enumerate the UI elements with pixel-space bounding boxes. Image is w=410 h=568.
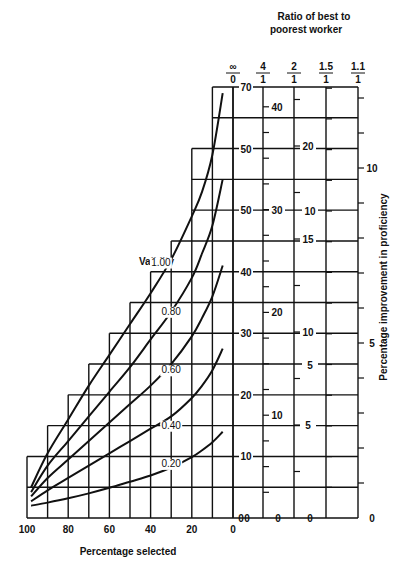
validity-curve-1-00 <box>31 93 223 487</box>
top-title-line2: poorest worker <box>270 24 342 35</box>
svg-text:5: 5 <box>369 338 375 349</box>
svg-text:1: 1 <box>355 74 361 85</box>
svg-text:40: 40 <box>145 524 157 535</box>
chart-canvas: ∞041211.511.1101020304050507001020304005… <box>0 0 410 568</box>
svg-text:100: 100 <box>19 524 36 535</box>
svg-text:20: 20 <box>186 524 198 535</box>
validity-label: 1.00 <box>151 257 171 268</box>
svg-text:50: 50 <box>240 144 252 155</box>
validity-curve-0-60 <box>31 266 223 497</box>
svg-text:0: 0 <box>275 513 281 524</box>
validity-label: 0.60 <box>161 364 181 375</box>
svg-text:0: 0 <box>230 74 236 85</box>
svg-text:20: 20 <box>271 307 283 318</box>
svg-text:5: 5 <box>307 360 313 371</box>
svg-text:1: 1 <box>323 74 329 85</box>
scale-axes: ∞041211.511.1101020304050507001020304005… <box>226 61 380 524</box>
svg-text:70: 70 <box>240 82 252 93</box>
svg-text:20: 20 <box>240 390 252 401</box>
svg-text:1: 1 <box>291 74 297 85</box>
svg-text:10: 10 <box>366 163 378 174</box>
svg-text:2: 2 <box>291 61 297 72</box>
svg-text:50: 50 <box>240 205 252 216</box>
svg-text:1.1: 1.1 <box>351 61 365 72</box>
svg-text:0: 0 <box>230 524 236 535</box>
svg-text:4: 4 <box>260 61 266 72</box>
right-axis-label: Percentage improvement in proficiency <box>378 193 389 381</box>
validity-label: 0.20 <box>161 458 181 469</box>
svg-text:10: 10 <box>304 206 316 217</box>
svg-text:∞: ∞ <box>229 61 236 72</box>
svg-text:40: 40 <box>271 102 283 113</box>
x-axis-label: Percentage selected <box>80 546 177 557</box>
svg-text:80: 80 <box>63 524 75 535</box>
svg-text:0: 0 <box>369 513 375 524</box>
top-title-line1: Ratio of best to <box>278 11 351 22</box>
svg-text:30: 30 <box>271 205 283 216</box>
validity-curves <box>31 93 223 506</box>
svg-text:0: 0 <box>244 513 250 524</box>
svg-text:5: 5 <box>305 420 311 431</box>
validity-curve-0-80 <box>31 179 223 492</box>
svg-text:30: 30 <box>240 328 252 339</box>
svg-text:15: 15 <box>302 234 314 245</box>
svg-text:0: 0 <box>307 513 313 524</box>
svg-text:40: 40 <box>240 267 252 278</box>
validity-label: 0.80 <box>161 306 181 317</box>
svg-text:20: 20 <box>302 141 314 152</box>
svg-text:10: 10 <box>240 451 252 462</box>
svg-text:10: 10 <box>302 327 314 338</box>
validity-label: 0.40 <box>161 420 181 431</box>
svg-text:1: 1 <box>260 74 266 85</box>
svg-text:60: 60 <box>104 524 116 535</box>
svg-text:1.5: 1.5 <box>319 61 333 72</box>
svg-text:10: 10 <box>271 410 283 421</box>
